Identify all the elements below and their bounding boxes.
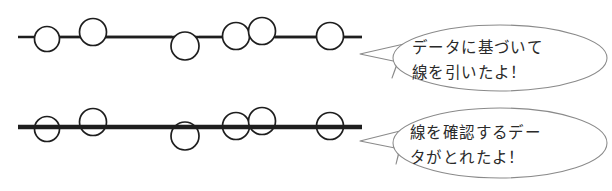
data-point-circle <box>317 23 344 50</box>
data-point-circle <box>80 19 107 46</box>
line-confirming-data-panel <box>18 108 362 151</box>
diagram-canvas: データに基づいて 線を引いたよ！ 線を確認するデー タがとれたよ！ <box>0 0 612 191</box>
data-point-circle <box>35 27 60 52</box>
speech-bubble-bottom: 線を確認するデー タがとれたよ！ <box>360 108 607 178</box>
speech-bubble-bottom-line-2: タがとれたよ！ <box>410 149 525 166</box>
speech-bubble-top: データに基づいて 線を引いたよ！ <box>360 25 607 91</box>
data-driven-line-panel <box>18 18 362 61</box>
speech-bubble-top-line-2: 線を引いたよ！ <box>412 64 527 81</box>
data-point-circle <box>249 18 276 45</box>
speech-bubble-bottom-body <box>393 108 607 178</box>
figure-root: データに基づいて 線を引いたよ！ 線を確認するデー タがとれたよ！ <box>0 0 612 191</box>
data-point-circle <box>80 109 107 136</box>
speech-bubble-top-line-1: データに基づいて <box>412 38 543 56</box>
speech-bubble-bottom-line-1: 線を確認するデー <box>410 123 541 141</box>
data-point-circle <box>249 108 276 135</box>
data-point-circle <box>223 23 250 50</box>
speech-bubble-top-body <box>393 25 607 91</box>
data-point-circle <box>171 32 199 60</box>
